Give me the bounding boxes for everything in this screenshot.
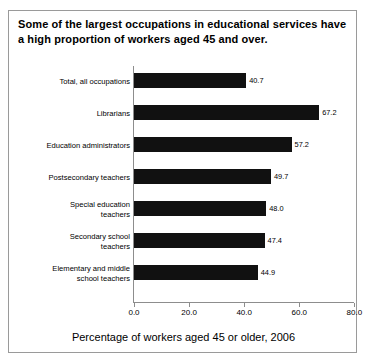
x-axis-title: Percentage of workers aged 45 or older, … [9,331,358,343]
category-label: Elementary and middleschool teachers [12,264,130,283]
bar-row: Education administrators57.2 [9,137,358,169]
bar-chart-plot: 0.020.040.060.080.0 Total, all occupatio… [9,11,358,354]
bar [134,265,258,280]
bar [134,105,319,120]
bar-value-label: 44.9 [261,268,275,277]
x-tick-label-0.0: 0.0 [114,308,154,317]
category-label: Education administrators [12,141,130,151]
bar [134,137,292,152]
category-label: Secondary schoolteachers [12,232,130,251]
chart-card: Some of the largest occupations in educa… [8,10,357,353]
category-label: Postsecondary teachers [12,173,130,183]
bar [134,169,271,184]
bar-value-label: 49.7 [274,172,288,181]
category-label: Librarians [12,109,130,119]
bar-row: Elementary and middleschool teachers44.9 [9,265,358,297]
category-label: Special educationteachers [12,200,130,219]
category-label: Total, all occupations [12,77,130,87]
bar-value-label: 47.4 [268,236,282,245]
x-tick-label-60.0: 60.0 [279,308,319,317]
bar-row: Postsecondary teachers49.7 [9,169,358,201]
x-tick-20.0 [189,303,190,307]
bar-value-label: 40.7 [249,76,263,85]
bar-value-label: 48.0 [269,204,283,213]
x-tick-40.0 [244,303,245,307]
bar-value-label: 57.2 [295,140,309,149]
bar-row: Total, all occupations40.7 [9,73,358,105]
bar [134,201,266,216]
bar [134,73,246,88]
bar-row: Librarians67.2 [9,105,358,137]
x-tick-label-40.0: 40.0 [224,308,264,317]
x-tick-0.0 [134,303,135,307]
bar-row: Secondary schoolteachers47.4 [9,233,358,265]
bar [134,233,265,248]
x-tick-80.0 [354,303,355,307]
x-tick-label-80.0: 80.0 [334,308,365,317]
x-tick-label-20.0: 20.0 [169,308,209,317]
x-tick-60.0 [299,303,300,307]
bar-row: Special educationteachers48.0 [9,201,358,233]
bar-value-label: 67.2 [322,108,336,117]
